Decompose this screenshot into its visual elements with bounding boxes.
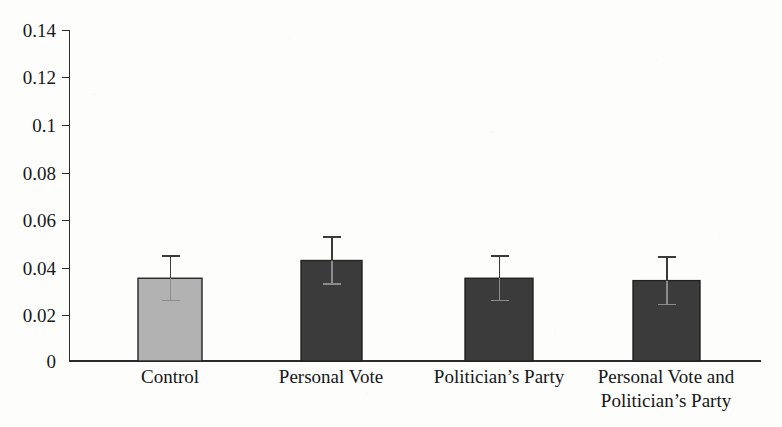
category-label-2-line-0: Politician’s Party (434, 366, 565, 387)
error-bars-layer (162, 237, 677, 304)
y-tick-label-3: 0.06 (23, 210, 56, 231)
figure-container: 0.14 0.12 0.1 0.08 0.06 0.04 0.02 0 Cont… (0, 0, 782, 427)
category-label-3-line-0: Personal Vote and (598, 366, 735, 387)
y-tick-label-2: 0.04 (23, 258, 57, 279)
category-label-0-line-0: Control (141, 366, 199, 387)
y-tick-label-0: 0 (47, 351, 57, 372)
y-tick-marks (62, 31, 69, 316)
category-label-0: Control (141, 366, 199, 387)
category-label-3-line-1: Politician’s Party (601, 390, 732, 411)
category-label-2: Politician’s Party (434, 366, 565, 387)
y-tick-labels: 0.14 0.12 0.1 0.08 0.06 0.04 0.02 0 (23, 20, 57, 372)
bar-chart-plot: 0.14 0.12 0.1 0.08 0.06 0.04 0.02 0 Cont… (0, 0, 782, 427)
category-label-3: Personal Vote andPolitician’s Party (598, 366, 735, 411)
y-tick-label-1: 0.02 (23, 305, 56, 326)
bars-layer (138, 261, 700, 361)
category-labels: ControlPersonal VotePolitician’s PartyPe… (141, 366, 735, 411)
category-label-1: Personal Vote (279, 366, 383, 387)
y-tick-label-4: 0.08 (23, 163, 56, 184)
y-tick-label-7: 0.14 (23, 20, 57, 41)
category-label-1-line-0: Personal Vote (279, 366, 383, 387)
y-tick-label-6: 0.12 (23, 67, 56, 88)
y-tick-label-5: 0.1 (32, 115, 56, 136)
